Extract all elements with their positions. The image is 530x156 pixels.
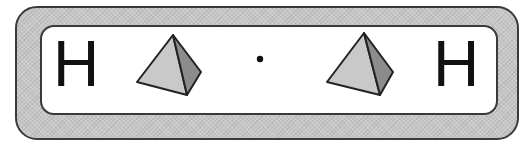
- electron-dot-icon: [257, 56, 263, 62]
- right-pyramid-icon: [327, 33, 393, 95]
- diagram-shapes: [0, 0, 530, 156]
- diagram-frame: H H: [0, 0, 530, 156]
- left-pyramid-icon: [137, 35, 201, 95]
